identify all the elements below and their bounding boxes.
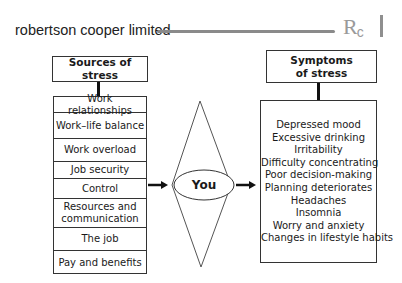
symptoms-connector [317,83,320,100]
symptoms-header-text: Symptoms of stress [287,54,357,80]
symptom-item: Difficulty concentrating [261,157,376,170]
symptoms-header: Symptoms of stress [266,50,377,83]
symptom-item: Planning deteriorates [261,182,376,195]
symptom-item: Excessive drinking [261,132,376,145]
symptom-item: Poor decision-making [261,169,376,182]
arrow-right-icon [148,181,168,189]
symptom-item: Headaches [261,195,376,208]
symptom-item: Irritability [261,144,376,157]
symptom-item: Depressed mood [261,119,376,132]
symptom-item: Changes in lifestyle habits [261,232,376,245]
symptoms-list: Depressed mood Excessive drinking Irrita… [260,100,377,263]
you-label: You [174,170,234,200]
symptom-item: Worry and anxiety [261,220,376,233]
symptom-item: Insomnia [261,207,376,220]
arrow-right-icon [236,181,256,189]
